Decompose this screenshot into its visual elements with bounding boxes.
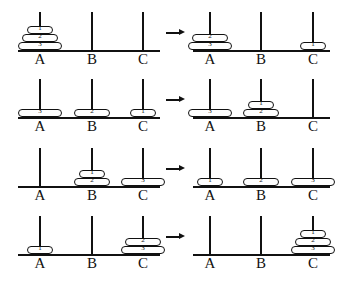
disc-3: 3: [18, 109, 62, 117]
disc-2: 2: [243, 178, 279, 186]
peg-c: [312, 79, 314, 117]
peg-label-b: B: [251, 52, 271, 67]
peg-label-b: B: [251, 188, 271, 203]
disc-2: 2: [192, 34, 228, 42]
disc-1: 1: [27, 26, 53, 34]
disc-number: 2: [244, 176, 278, 185]
disc-number: 2: [193, 32, 227, 41]
disc-number: 1: [198, 176, 222, 185]
peg-label-c: C: [133, 188, 153, 203]
disc-number: 3: [189, 107, 231, 116]
arrow-right-icon: [166, 32, 180, 34]
peg-b: [260, 12, 262, 50]
peg-label-c: C: [303, 52, 323, 67]
arrow-right-icon: [166, 236, 180, 238]
peg-c: [142, 12, 144, 50]
arrow-right-icon: [166, 99, 180, 101]
peg-label-a: A: [200, 119, 220, 134]
disc-2: 2: [22, 34, 58, 42]
disc-3: 3: [291, 178, 335, 186]
disc-number: 1: [131, 107, 155, 116]
disc-3: 3: [121, 246, 165, 254]
disc-3: 3: [121, 178, 165, 186]
disc-3: 3: [188, 109, 232, 117]
disc-number: 1: [249, 99, 273, 108]
peg-label-a: A: [30, 188, 50, 203]
disc-number: 1: [28, 24, 52, 33]
peg-label-c: C: [303, 119, 323, 134]
disc-number: 1: [80, 168, 104, 177]
peg-label-c: C: [303, 256, 323, 271]
disc-2: 2: [295, 238, 331, 246]
disc-number: 3: [122, 176, 164, 185]
disc-number: 1: [28, 244, 52, 253]
peg-label-a: A: [200, 188, 220, 203]
disc-number: 1: [301, 228, 325, 237]
peg-label-c: C: [133, 256, 153, 271]
disc-number: 1: [301, 40, 325, 49]
disc-3: 3: [291, 246, 335, 254]
peg-b: [260, 216, 262, 254]
peg-label-a: A: [30, 52, 50, 67]
disc-number: 2: [75, 107, 109, 116]
disc-3: 3: [188, 42, 232, 50]
disc-2: 2: [74, 178, 110, 186]
disc-1: 1: [248, 101, 274, 109]
disc-1: 1: [300, 42, 326, 50]
peg-a: [209, 216, 211, 254]
peg-label-a: A: [200, 52, 220, 67]
disc-1: 1: [130, 109, 156, 117]
peg-label-b: B: [82, 52, 102, 67]
peg-label-a: A: [200, 256, 220, 271]
peg-label-a: A: [30, 256, 50, 271]
disc-2: 2: [243, 109, 279, 117]
peg-label-b: B: [251, 256, 271, 271]
peg-a: [39, 148, 41, 186]
peg-label-c: C: [133, 52, 153, 67]
peg-label-a: A: [30, 119, 50, 134]
disc-3: 3: [18, 42, 62, 50]
peg-label-b: B: [251, 119, 271, 134]
disc-number: 2: [126, 236, 160, 245]
disc-2: 2: [74, 109, 110, 117]
peg-b: [91, 216, 93, 254]
disc-2: 2: [125, 238, 161, 246]
disc-1: 1: [300, 230, 326, 238]
disc-1: 1: [27, 246, 53, 254]
peg-b: [91, 12, 93, 50]
peg-label-b: B: [82, 119, 102, 134]
disc-1: 1: [79, 170, 105, 178]
disc-1: 1: [197, 178, 223, 186]
disc-number: 3: [19, 107, 61, 116]
disc-number: 3: [292, 176, 334, 185]
peg-label-c: C: [303, 188, 323, 203]
arrow-right-icon: [166, 168, 180, 170]
peg-label-c: C: [133, 119, 153, 134]
peg-label-b: B: [82, 188, 102, 203]
peg-label-b: B: [82, 256, 102, 271]
